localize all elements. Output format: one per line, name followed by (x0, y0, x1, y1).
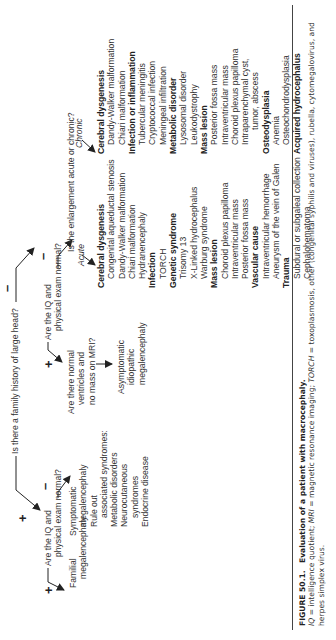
plus-sign: + (44, 360, 54, 368)
caption-divider (292, 5, 293, 630)
minus-sign: – (2, 285, 12, 292)
acute-causes-list: Cerebral dysgenesis Congenital aqueducta… (96, 157, 312, 288)
symptomatic-megalencephaly-list: Symptomatic megalencephaly Rule out asso… (68, 430, 150, 536)
chronic-causes-list: Cerebral dysgenesis Dandy-Walker malform… (96, 39, 302, 154)
figure-caption: FIGURE 50.1. Evaluation of a patient wit… (298, 6, 326, 626)
abbrev-term: MRI (307, 509, 316, 523)
figure-label: FIGURE 50.1. (298, 570, 307, 626)
acute-label: Acute (76, 244, 86, 266)
abbrev-term: TORCH (307, 356, 316, 383)
mri-question: Are there normal ventricles and no mass … (66, 338, 97, 414)
abbrev-term: IQ (307, 618, 316, 626)
root-question: Is there a family history of large head? (10, 308, 20, 454)
plus-sign: + (44, 586, 54, 594)
plus-sign: + (18, 514, 28, 522)
chronic-label: Chronic (74, 118, 84, 148)
flowchart-figure: Is there a family history of large head?… (0, 0, 336, 640)
minus-sign: – (40, 483, 50, 490)
minus-sign: – (38, 253, 48, 260)
figure-title: Evaluation of a patient with macrocephal… (298, 379, 307, 563)
asymptomatic-idiopathic-megalencephaly: Asymptomatic idiopathic megalencephaly (116, 322, 147, 394)
